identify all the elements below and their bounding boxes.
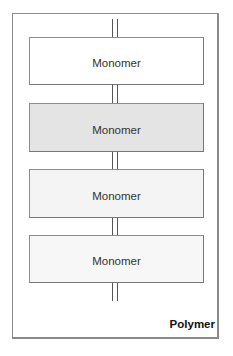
monomer-3: Monomer: [29, 169, 204, 218]
monomer-1: Monomer: [29, 37, 204, 85]
monomer-label: Monomer: [92, 255, 141, 267]
bond-3-4: [112, 218, 118, 235]
bond-1-2: [112, 85, 118, 103]
monomer-4: Monomer: [29, 235, 204, 283]
bond-2-3: [112, 152, 118, 169]
monomer-label: Monomer: [92, 124, 141, 136]
bond-bottom: [112, 283, 118, 301]
monomer-label: Monomer: [92, 190, 141, 202]
bond-top: [112, 19, 118, 37]
monomer-label: Monomer: [92, 57, 141, 69]
polymer-label: Polymer: [170, 318, 215, 330]
monomer-2: Monomer: [29, 103, 204, 152]
